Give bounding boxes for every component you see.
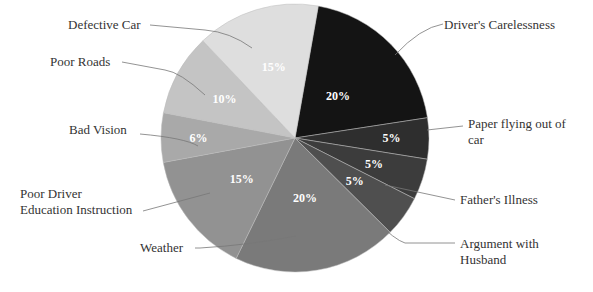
percentage-label: 20% [293, 191, 317, 205]
label-argument-line1: Argument with [460, 236, 539, 251]
label-poor-driver-line2: Education Instruction [20, 202, 133, 217]
label-poor-driver-line1: Poor Driver [20, 186, 82, 201]
percentage-label: 5% [383, 131, 401, 145]
label-drivers-carelessness: Driver's Carelessness [444, 17, 555, 32]
percentage-label: 5% [346, 174, 364, 188]
percentage-label: 15% [262, 60, 286, 74]
label-argument-line2: Husband [460, 252, 507, 267]
percentage-label: 10% [213, 92, 237, 106]
label-fathers-illness: Father's Illness [460, 192, 538, 207]
pie-chart: 20%5%5%5%20%15%6%10%15% Driver's Careles… [0, 0, 593, 292]
percentage-label: 5% [365, 157, 383, 171]
percentage-label: 15% [230, 172, 254, 186]
percentage-label: 6% [190, 131, 208, 145]
percentage-label: 20% [326, 89, 350, 103]
label-paper-flying-line1: Paper flying out of [468, 116, 567, 131]
label-bad-vision: Bad Vision [69, 122, 127, 137]
label-paper-flying-line2: car [468, 132, 485, 147]
label-defective-car: Defective Car [68, 17, 141, 32]
leader-line-drivers-carelessness [395, 24, 443, 55]
leader-line-paper-flying [427, 126, 463, 130]
label-weather: Weather [140, 240, 184, 255]
label-poor-roads: Poor Roads [50, 54, 110, 69]
